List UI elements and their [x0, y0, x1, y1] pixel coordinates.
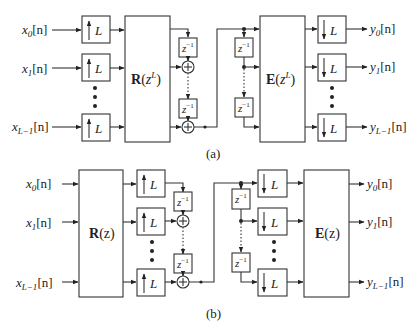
- downsampler-label: L: [329, 23, 337, 38]
- ellipsis-dots: [150, 240, 154, 262]
- upsampler-label: L: [149, 177, 157, 192]
- svg-text:E(z): E(z): [315, 226, 340, 242]
- caption-b: (b): [206, 306, 221, 321]
- downsampler-label: L: [270, 276, 278, 291]
- upsampler-block: L: [82, 54, 110, 81]
- downsampler-label: L: [329, 61, 337, 76]
- upsampler-block: L: [137, 170, 165, 197]
- arrow: [241, 272, 257, 282]
- upsampler-block: L: [137, 269, 165, 296]
- arrow: [165, 183, 183, 192]
- output-label-yL-1: yL−1[n]: [365, 274, 404, 291]
- downsampler-block: L: [318, 54, 346, 81]
- delay-block: z−1: [232, 253, 250, 272]
- upsampler-block: L: [137, 208, 165, 235]
- svg-text:E(zL): E(zL): [266, 70, 295, 88]
- upsampler-label: L: [94, 23, 102, 38]
- adder: [182, 61, 194, 73]
- ellipsis-dots: [330, 86, 334, 108]
- upsampler-label: L: [94, 121, 102, 136]
- input-label-x0: x0[n]: [25, 176, 51, 193]
- panel-a: x0[n] x1[n] xL−1[n] L L L: [11, 16, 407, 161]
- delay-block: z−1: [174, 254, 192, 273]
- adder: [182, 121, 194, 133]
- output-label-y0: y0[n]: [365, 176, 392, 193]
- input-label-x1: x1[n]: [21, 61, 47, 78]
- panel-b: x0[n] x1[n] xL−1[n] R(z) L: [15, 170, 404, 321]
- svg-text:R(z): R(z): [89, 226, 115, 242]
- downsampler-block: L: [258, 170, 287, 197]
- output-label-y0: y0[n]: [368, 21, 395, 38]
- delay-block: z−1: [179, 99, 197, 118]
- input-label-xL-1: xL−1[n]: [11, 119, 49, 136]
- downsampler-block: L: [318, 114, 346, 141]
- ellipsis-dots: [93, 86, 97, 108]
- polyphase-matrix-E: E(z): [304, 170, 349, 297]
- upsampler-label: L: [149, 276, 157, 291]
- output-label-y1: y1[n]: [368, 59, 395, 76]
- upsampler-block: L: [82, 16, 110, 43]
- polyphase-matrix-E: E(zL): [260, 16, 305, 142]
- delay-block: z−1: [235, 38, 253, 57]
- polyphase-matrix-R: R(zL): [125, 16, 170, 142]
- downsampler-block: L: [318, 16, 346, 43]
- upsampler-block: L: [82, 114, 110, 141]
- delay-block: z−1: [235, 98, 253, 117]
- upsampler-label: L: [94, 61, 102, 76]
- downsampler-block: L: [258, 269, 287, 296]
- delay-block: z−1: [179, 38, 197, 57]
- adder: [177, 276, 189, 288]
- downsampler-label: L: [270, 177, 278, 192]
- svg-text:R(zL): R(zL): [131, 70, 161, 88]
- upsampler-label: L: [149, 215, 157, 230]
- polyphase-matrix-R: R(z): [79, 170, 123, 297]
- downsampler-label: L: [270, 215, 278, 230]
- downsampler-block: L: [258, 208, 287, 235]
- adder: [177, 215, 189, 227]
- arrow: [170, 29, 188, 37]
- ellipsis-dots: [272, 240, 276, 262]
- input-label-x1: x1[n]: [25, 215, 51, 232]
- caption-a: (a): [206, 146, 220, 161]
- input-label-x0: x0[n]: [21, 22, 47, 39]
- input-label-xL-1: xL−1[n]: [15, 275, 53, 292]
- output-label-y1: y1[n]: [365, 214, 392, 231]
- delay-block: z−1: [232, 189, 250, 209]
- delay-block: z−1: [174, 192, 192, 211]
- downsampler-label: L: [329, 121, 337, 136]
- output-label-yL-1: yL−1[n]: [368, 119, 407, 136]
- arrow: [244, 117, 259, 127]
